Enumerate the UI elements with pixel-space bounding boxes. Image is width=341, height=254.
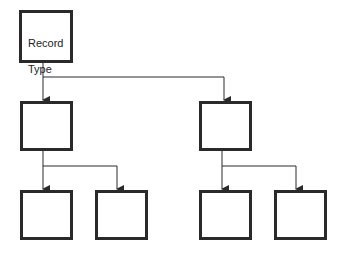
grandchild-node-right-2 (274, 190, 327, 240)
root-node-record-type: Record Type (19, 10, 73, 63)
root-label-line2: Type (28, 63, 63, 76)
grandchild-node-left-2 (95, 190, 148, 240)
child-node-left (20, 101, 73, 151)
grandchild-node-left-1 (20, 190, 73, 240)
root-label-line1: Record (28, 37, 63, 50)
root-node-label: Record Type (28, 24, 63, 89)
grandchild-node-right-1 (199, 190, 252, 240)
child-node-right (199, 101, 252, 151)
